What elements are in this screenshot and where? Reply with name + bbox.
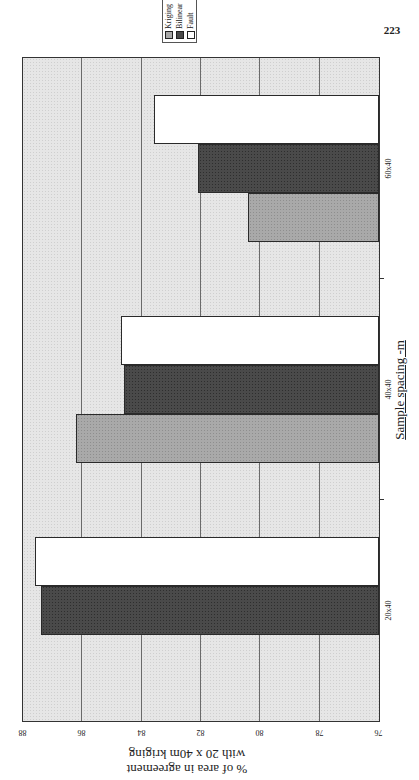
bar-fault-20x40 [35, 537, 379, 586]
legend-swatch-icon [165, 31, 173, 39]
category-label: 20x40 [384, 581, 393, 641]
legend-item-bilinear: Bilinear [175, 3, 184, 39]
plot-area [22, 57, 380, 722]
category-tick [380, 278, 384, 279]
y-axis-title: % of area in agreement with 20 x 40m kri… [87, 747, 287, 777]
y-tick-label: 78 [307, 728, 331, 737]
rotated-chart-page: 223 KrigingBilinearFault 76788082848688 … [0, 0, 419, 780]
legend-label: Fault [186, 13, 195, 29]
legend-item-fault: Fault [186, 3, 195, 39]
bar-bilinear-40x40 [124, 365, 379, 414]
bar-kriging-60x40 [248, 193, 379, 242]
legend-label: Bilinear [175, 3, 184, 29]
legend-swatch-icon [176, 31, 184, 39]
y-tick-label: 86 [70, 728, 94, 737]
legend-swatch-icon [187, 31, 195, 39]
y-axis-title-line2: with 20 x 40m kriging [87, 747, 287, 762]
bar-fault-40x40 [121, 316, 379, 365]
y-tick-label: 84 [129, 728, 153, 737]
y-tick-label: 76 [367, 728, 391, 737]
page-number: 223 [384, 24, 401, 36]
y-tick-label: 80 [248, 728, 272, 737]
category-tick [380, 499, 384, 500]
bar-bilinear-60x40 [198, 144, 379, 193]
bar-bilinear-20x40 [41, 586, 379, 635]
bar-fault-60x40 [154, 95, 379, 144]
y-tick-label: 88 [11, 728, 35, 737]
category-label: 60x40 [384, 139, 393, 199]
y-tick-label: 82 [189, 728, 213, 737]
legend-label: Kriging [164, 4, 173, 29]
y-axis-title-line1: % of area in agreement [87, 762, 287, 777]
chart-legend: KrigingBilinearFault [162, 0, 197, 43]
legend-item-kriging: Kriging [164, 3, 173, 39]
bar-kriging-40x40 [76, 414, 379, 463]
x-axis-title: Sample spacing -m [392, 290, 408, 490]
